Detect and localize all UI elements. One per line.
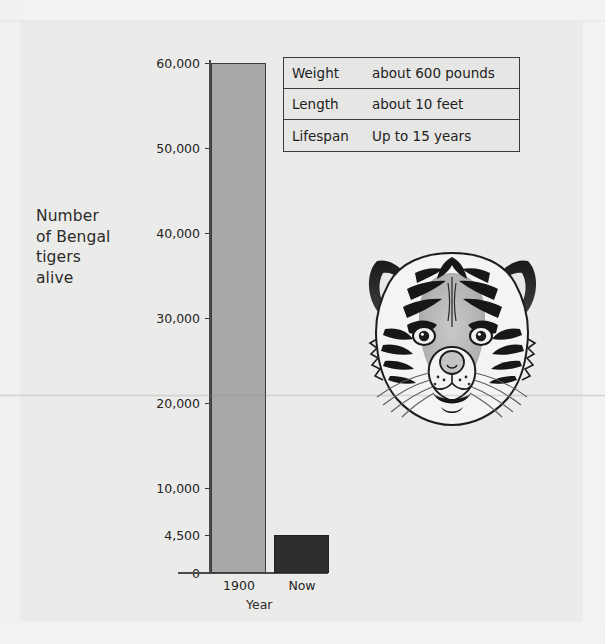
page-root: Number of Bengal tigers alive 60,00050,0…	[0, 0, 605, 644]
fact-value-length: about 10 feet	[372, 96, 519, 112]
fact-key-weight: Weight	[284, 65, 372, 81]
fact-key-lifespan: Lifespan	[284, 128, 372, 144]
table-row: Length about 10 feet	[284, 89, 519, 120]
bar-1900[interactable]	[211, 63, 266, 573]
fact-value-lifespan: Up to 15 years	[372, 128, 519, 144]
bar-now[interactable]	[274, 535, 329, 573]
x-axis-title: Year	[246, 597, 272, 612]
table-row: Weight about 600 pounds	[284, 58, 519, 89]
tiger-facts-table: Weight about 600 pounds Length about 10 …	[283, 57, 520, 152]
table-row: Lifespan Up to 15 years	[284, 120, 519, 151]
bengal-tiger-illustration	[345, 243, 560, 441]
fact-key-length: Length	[284, 96, 372, 112]
x-tick-label-now: Now	[262, 578, 342, 593]
fact-value-weight: about 600 pounds	[372, 65, 519, 81]
